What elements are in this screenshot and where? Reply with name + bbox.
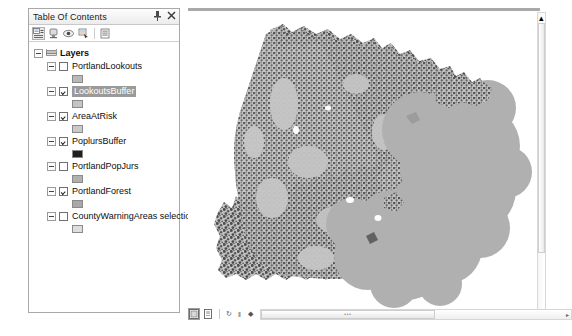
pin-icon[interactable] (153, 11, 162, 21)
map-canvas[interactable] (188, 12, 533, 309)
list-by-source-button[interactable] (47, 27, 60, 40)
layer-visibility-checkbox[interactable] (59, 162, 68, 171)
toc-options-button[interactable] (99, 27, 112, 40)
symbol-spacer (60, 150, 69, 159)
map-vertical-scrollbar[interactable]: ▴ (537, 12, 546, 312)
layer-row-portlandlookouts[interactable]: PortlandLookouts (34, 60, 179, 73)
layer-symbol-row (34, 173, 179, 185)
layer-visibility-checkbox[interactable] (59, 137, 68, 146)
layer-symbol-swatch[interactable] (72, 75, 83, 83)
layer-visibility-checkbox[interactable] (59, 112, 68, 121)
map-graphic (188, 12, 533, 309)
scrollbar-thumb[interactable] (538, 23, 545, 253)
layer-symbol-swatch[interactable] (72, 100, 83, 108)
layer-row-portlandpopjurs[interactable]: PortlandPopJurs (34, 160, 179, 173)
map-horizontal-scrollbar[interactable]: ••• ▸ (260, 309, 572, 320)
layer-symbol-row (34, 123, 179, 135)
table-of-contents-panel: Table Of Contents (28, 8, 180, 313)
layer-visibility-checkbox[interactable] (59, 87, 68, 96)
toc-toolbar (29, 25, 179, 42)
toc-header: Table Of Contents (29, 9, 179, 25)
layer-label: PoplursBuffer (72, 136, 126, 147)
status-bar (0, 322, 572, 336)
list-by-drawing-order-button[interactable] (32, 27, 45, 40)
scroll-right-arrow-icon[interactable]: ▸ (566, 311, 569, 318)
layer-row-areaatrisk[interactable]: AreaAtRisk (34, 110, 179, 123)
layer-symbol-row (34, 223, 179, 235)
layer-label: CountyWarningAreas selection (72, 211, 195, 222)
data-view-button[interactable] (188, 308, 200, 320)
symbol-spacer (60, 125, 69, 134)
layer-label: PortlandLookouts (72, 61, 142, 72)
layer-symbol-swatch[interactable] (72, 150, 83, 158)
layer-label: LookoutsBuffer (72, 86, 136, 97)
symbol-spacer (60, 175, 69, 184)
layout-view-button[interactable] (202, 308, 214, 320)
scrollbar-grip: ••• (344, 311, 352, 317)
toolbar-separator (94, 28, 95, 39)
layer-expander[interactable] (47, 87, 56, 96)
layer-symbol-swatch[interactable] (72, 225, 83, 233)
tree-root-label: Layers (60, 48, 89, 59)
map-view: ▴ (188, 8, 572, 336)
refresh-icon[interactable]: ↻ (223, 309, 234, 320)
symbol-spacer (60, 75, 69, 84)
layer-expander[interactable] (47, 137, 56, 146)
layer-row-portlandforest[interactable]: PortlandForest (34, 185, 179, 198)
layer-symbol-row (34, 73, 179, 85)
layer-symbol-swatch[interactable] (72, 125, 83, 133)
layer-visibility-checkbox[interactable] (59, 212, 68, 221)
layer-label: PortlandForest (72, 186, 131, 197)
symbol-spacer (60, 200, 69, 209)
layer-expander[interactable] (47, 162, 56, 171)
layer-row-countywarningareas-selection[interactable]: CountyWarningAreas selection (34, 210, 179, 223)
layer-row-lookoutsbuffer[interactable]: LookoutsBuffer (34, 85, 179, 98)
layer-label: PortlandPopJurs (72, 161, 139, 172)
layer-expander[interactable] (47, 112, 56, 121)
zoom-page-icon[interactable]: ◆ (245, 309, 256, 320)
close-icon[interactable] (167, 11, 176, 21)
layer-expander[interactable] (47, 62, 56, 71)
bottombar-separator (219, 309, 220, 319)
panel-title: Table Of Contents (29, 12, 107, 22)
layer-expander[interactable] (47, 187, 56, 196)
symbol-spacer (60, 225, 69, 234)
arcmap-window: Table Of Contents (0, 0, 572, 336)
panel-header-buttons (153, 11, 176, 21)
layer-expander[interactable] (47, 212, 56, 221)
layer-row-poplursbuffer[interactable]: PoplursBuffer (34, 135, 179, 148)
symbol-spacer (60, 100, 69, 109)
scroll-up-arrow-icon[interactable]: ▴ (538, 13, 545, 22)
layer-symbol-row (34, 148, 179, 160)
list-by-selection-button[interactable] (77, 27, 90, 40)
layer-visibility-checkbox[interactable] (59, 187, 68, 196)
layer-symbol-swatch[interactable] (72, 175, 83, 183)
layer-symbol-row (34, 98, 179, 110)
layer-label: AreaAtRisk (72, 111, 117, 122)
layer-symbol-swatch[interactable] (72, 200, 83, 208)
layers-stack-icon (46, 49, 57, 58)
layer-visibility-checkbox[interactable] (59, 62, 68, 71)
map-bottom-bar: ↻ ‖ ◆ ••• ▸ (188, 306, 572, 322)
map-view-top-edge (188, 8, 540, 11)
layer-tree: Layers PortlandLookouts LookoutsBuffer (29, 42, 179, 235)
list-by-visibility-button[interactable] (62, 27, 75, 40)
tree-root-layers[interactable]: Layers (34, 47, 179, 60)
hscrollbar-thumb[interactable]: ••• (261, 310, 435, 319)
layer-symbol-row (34, 198, 179, 210)
pause-icon[interactable]: ‖ (234, 309, 245, 320)
root-expander[interactable] (34, 49, 43, 58)
